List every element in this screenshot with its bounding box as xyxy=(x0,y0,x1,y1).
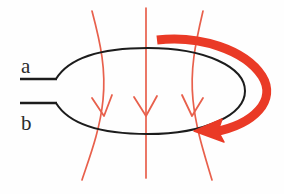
figure-root: a b xyxy=(0,0,284,194)
label-terminal-a: a xyxy=(21,54,31,78)
field-line-left xyxy=(82,11,112,180)
rotation-direction-arrow xyxy=(157,39,267,142)
loop-in-magnetic-field-diagram: a b xyxy=(0,0,284,194)
magnetic-field-lines-group xyxy=(82,8,212,180)
field-line-left-path xyxy=(82,11,104,180)
rotation-arrow-shaft xyxy=(157,39,267,132)
field-line-center xyxy=(134,8,157,178)
label-terminal-b: b xyxy=(21,111,32,135)
terminal-leads-group xyxy=(20,79,57,103)
